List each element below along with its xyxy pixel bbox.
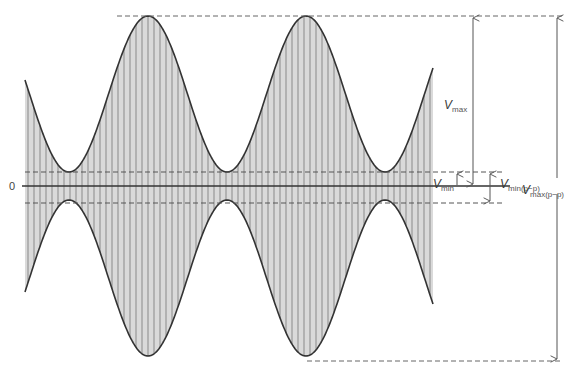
vmax-pp-label: Vmax(p−p): [522, 181, 564, 199]
lower-envelope: [25, 200, 433, 356]
zero-axis-label: 0: [9, 181, 15, 192]
vmax-label: Vmax: [444, 96, 467, 114]
upper-envelope: [25, 16, 433, 172]
am-waveform-diagram: [0, 0, 587, 375]
vmin-label: Vmin: [433, 175, 454, 193]
